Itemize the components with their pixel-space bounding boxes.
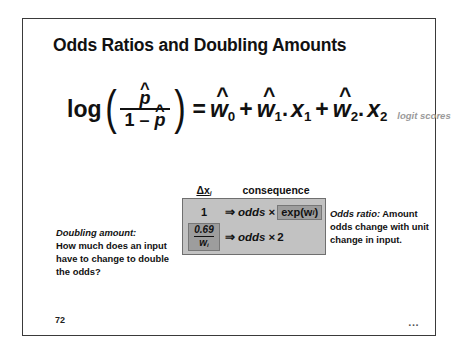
exp-subscript: i bbox=[312, 210, 314, 217]
logit-scores-annotation: logit scores bbox=[397, 110, 450, 121]
odds-callout-colon: : bbox=[377, 208, 380, 219]
fraction-denominator: 1 – ^ p bbox=[120, 110, 169, 129]
hat-accent-icon: ^ bbox=[155, 103, 165, 120]
exp-function-label: exp(w bbox=[281, 206, 312, 218]
doubling-callout-colon: : bbox=[133, 227, 136, 238]
delta-x-subscript: i bbox=[210, 190, 212, 197]
multiply-dot-1: . bbox=[282, 96, 288, 122]
exp-weight-highlight: exp(wi) bbox=[277, 205, 322, 220]
multiply-icon: × bbox=[268, 231, 275, 243]
doubling-numerator: 0.69 bbox=[194, 225, 213, 236]
probability-odds-fraction: ^ p 1 – ^ p bbox=[120, 89, 169, 129]
close-paren: ) bbox=[174, 91, 186, 126]
doubling-amount-highlight: 0.69 wi bbox=[188, 223, 219, 251]
plus-sign-2: + bbox=[315, 96, 328, 123]
hat-accent-icon: ^ bbox=[339, 85, 351, 106]
exp-close-paren: ) bbox=[314, 206, 318, 218]
table-row: 0.69 wi ⇒ odds × 2 bbox=[183, 223, 325, 251]
odds-ratio-callout: Odds ratio: Amount odds change with unit… bbox=[330, 208, 442, 247]
odds-label: odds bbox=[238, 231, 265, 243]
table-header-row: Δxi consequence bbox=[182, 184, 326, 198]
weight-term-1: ^ w1 bbox=[257, 96, 282, 123]
multiply-dot-2: . bbox=[358, 96, 364, 122]
doubling-denominator: wi bbox=[199, 237, 209, 248]
slide-number: 72 bbox=[55, 315, 65, 325]
x-symbol: x bbox=[367, 96, 380, 122]
hat-accent-icon: ^ bbox=[216, 85, 228, 106]
weight-symbol: w bbox=[199, 237, 207, 248]
weight-subscript: 0 bbox=[228, 109, 235, 124]
p-hat-numerator: ^ p bbox=[140, 89, 151, 107]
column-header-delta-x: Δxi bbox=[182, 184, 226, 196]
delta-x-label: Δx bbox=[196, 184, 209, 196]
x-symbol: x bbox=[291, 96, 304, 122]
p-hat-denominator: ^ p bbox=[155, 111, 166, 129]
doubling-result-value: 2 bbox=[277, 231, 283, 243]
hat-accent-icon: ^ bbox=[140, 81, 150, 98]
input-var-1: x1 bbox=[291, 96, 311, 123]
logit-equation: log ( ^ p 1 – ^ p ) = ^ w0 bbox=[67, 89, 451, 129]
equals-sign: = bbox=[193, 96, 206, 123]
log-label: log bbox=[67, 96, 102, 123]
odds-callout-lead: Odds ratio bbox=[330, 208, 377, 219]
implies-arrow-icon: ⇒ bbox=[225, 230, 235, 244]
odds-ratio-table: Δxi consequence 1 ⇒ odds × exp(wi) 0.69 bbox=[182, 184, 326, 255]
plus-sign-1: + bbox=[239, 96, 252, 123]
fraction-numerator: ^ p bbox=[136, 89, 155, 108]
doubling-callout-lead: Doubling amount bbox=[56, 227, 133, 238]
weight-subscript: 1 bbox=[275, 109, 282, 124]
input-var-2: x2 bbox=[367, 96, 387, 123]
more-indicator: ... bbox=[408, 316, 419, 328]
multiply-icon: × bbox=[268, 206, 275, 218]
weight-subscript: 2 bbox=[351, 109, 358, 124]
doubling-callout-body: How much does an input have to change to… bbox=[56, 240, 169, 277]
page-title: Odds Ratios and Doubling Amounts bbox=[53, 35, 346, 56]
table-body: 1 ⇒ odds × exp(wi) 0.69 wi bbox=[182, 198, 326, 255]
x-subscript: 1 bbox=[304, 109, 311, 124]
open-paren: ( bbox=[105, 91, 117, 126]
table-row: 1 ⇒ odds × exp(wi) bbox=[183, 201, 325, 223]
weight-subscript: i bbox=[207, 241, 209, 248]
consequence-row-2: ⇒ odds × 2 bbox=[225, 230, 325, 244]
one-minus-label: 1 – bbox=[124, 110, 149, 130]
hat-accent-icon: ^ bbox=[263, 85, 275, 106]
weight-term-2: ^ w2 bbox=[333, 96, 358, 123]
delta-x-value-row-2: 0.69 wi bbox=[183, 223, 225, 251]
slide-frame: Odds Ratios and Doubling Amounts log ( ^… bbox=[22, 18, 436, 336]
odds-label: odds bbox=[238, 206, 265, 218]
x-subscript: 2 bbox=[380, 109, 387, 124]
consequence-row-1: ⇒ odds × exp(wi) bbox=[225, 205, 325, 220]
column-header-consequence: consequence bbox=[226, 184, 326, 196]
delta-x-value-row-1: 1 bbox=[183, 206, 225, 218]
implies-arrow-icon: ⇒ bbox=[225, 205, 235, 219]
weight-term-0: ^ w0 bbox=[210, 96, 235, 123]
doubling-amount-callout: Doubling amount: How much does an input … bbox=[56, 227, 178, 279]
